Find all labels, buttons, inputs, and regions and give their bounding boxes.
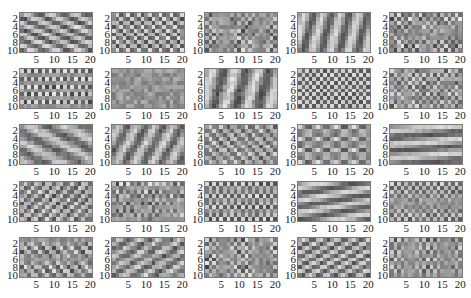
x-tick-label: 5 xyxy=(120,110,136,121)
subplot-6: 2468105101520 xyxy=(20,69,92,108)
y-tick-label: 10 xyxy=(189,102,203,111)
heatmap-image xyxy=(205,125,277,164)
x-tick-label: 5 xyxy=(398,166,414,177)
subplot-3: 2468105101520 xyxy=(205,13,277,52)
x-tick-label: 5 xyxy=(306,223,322,234)
x-tick-label: 10 xyxy=(231,166,247,177)
x-tick-label: 20 xyxy=(360,110,376,121)
subplot-21: 2468105101520 xyxy=(20,238,92,277)
y-tick-label: 10 xyxy=(4,271,18,280)
x-tick-label: 5 xyxy=(213,279,229,290)
x-tick-label: 10 xyxy=(46,166,62,177)
subplot-11: 2468105101520 xyxy=(20,125,92,164)
heatmap-image xyxy=(298,182,370,221)
x-tick-label: 10 xyxy=(416,279,432,290)
x-tick-label: 10 xyxy=(231,223,247,234)
y-tick-label: 10 xyxy=(4,46,18,55)
subplot-10: 2468105101520 xyxy=(390,69,462,108)
heatmap-image xyxy=(205,69,277,108)
subplot-4: 2468105101520 xyxy=(298,13,370,52)
x-tick-label: 20 xyxy=(82,54,98,65)
y-tick-label: 10 xyxy=(189,158,203,167)
y-tick-label: 10 xyxy=(282,271,296,280)
x-tick-label: 5 xyxy=(213,166,229,177)
y-tick-label: 10 xyxy=(282,46,296,55)
x-tick-label: 15 xyxy=(249,223,265,234)
x-tick-label: 20 xyxy=(452,223,468,234)
x-tick-label: 20 xyxy=(174,166,190,177)
x-tick-label: 15 xyxy=(156,110,172,121)
subplot-15: 2468105101520 xyxy=(390,125,462,164)
subplot-17: 2468105101520 xyxy=(112,182,184,221)
x-tick-label: 10 xyxy=(416,110,432,121)
y-tick-label: 10 xyxy=(96,158,110,167)
heatmap-image xyxy=(390,125,462,164)
x-tick-label: 20 xyxy=(267,54,283,65)
x-tick-label: 5 xyxy=(213,223,229,234)
x-tick-label: 15 xyxy=(342,54,358,65)
subplot-24: 2468105101520 xyxy=(298,238,370,277)
heatmap-image xyxy=(205,238,277,277)
x-tick-label: 10 xyxy=(324,54,340,65)
x-tick-label: 10 xyxy=(416,223,432,234)
heatmap-image xyxy=(20,69,92,108)
x-tick-label: 20 xyxy=(267,279,283,290)
x-tick-label: 15 xyxy=(249,110,265,121)
x-tick-label: 15 xyxy=(64,279,80,290)
x-tick-label: 20 xyxy=(267,223,283,234)
x-tick-label: 15 xyxy=(342,223,358,234)
x-tick-label: 15 xyxy=(434,166,450,177)
x-tick-label: 10 xyxy=(324,279,340,290)
subplot-8: 2468105101520 xyxy=(205,69,277,108)
x-tick-label: 5 xyxy=(120,279,136,290)
x-tick-label: 20 xyxy=(360,54,376,65)
x-tick-label: 15 xyxy=(249,54,265,65)
x-tick-label: 20 xyxy=(82,166,98,177)
x-tick-label: 5 xyxy=(120,223,136,234)
heatmap-image xyxy=(390,182,462,221)
y-tick-label: 10 xyxy=(4,102,18,111)
subplot-9: 2468105101520 xyxy=(298,69,370,108)
x-tick-label: 20 xyxy=(452,110,468,121)
heatmap-image xyxy=(112,13,184,52)
subplot-25: 2468105101520 xyxy=(390,238,462,277)
heatmap-image xyxy=(20,125,92,164)
heatmap-image xyxy=(20,182,92,221)
x-tick-label: 20 xyxy=(452,279,468,290)
x-tick-label: 5 xyxy=(398,279,414,290)
heatmap-image xyxy=(20,13,92,52)
x-tick-label: 10 xyxy=(138,110,154,121)
y-tick-label: 10 xyxy=(282,215,296,224)
x-tick-label: 10 xyxy=(231,279,247,290)
x-tick-label: 20 xyxy=(82,110,98,121)
y-tick-label: 10 xyxy=(374,215,388,224)
subplot-23: 2468105101520 xyxy=(205,238,277,277)
x-tick-label: 20 xyxy=(174,279,190,290)
subplot-12: 2468105101520 xyxy=(112,125,184,164)
subplot-13: 2468105101520 xyxy=(205,125,277,164)
x-tick-label: 15 xyxy=(342,166,358,177)
x-tick-label: 10 xyxy=(231,54,247,65)
heatmap-image xyxy=(20,238,92,277)
x-tick-label: 5 xyxy=(28,54,44,65)
y-tick-label: 10 xyxy=(374,271,388,280)
x-tick-label: 20 xyxy=(267,110,283,121)
x-tick-label: 20 xyxy=(82,279,98,290)
x-tick-label: 15 xyxy=(342,279,358,290)
subplot-18: 2468105101520 xyxy=(205,182,277,221)
x-tick-label: 20 xyxy=(267,166,283,177)
x-tick-label: 5 xyxy=(28,166,44,177)
subplot-2: 2468105101520 xyxy=(112,13,184,52)
x-tick-label: 10 xyxy=(46,279,62,290)
x-tick-label: 10 xyxy=(231,110,247,121)
heatmap-image xyxy=(298,238,370,277)
x-tick-label: 10 xyxy=(324,110,340,121)
y-tick-label: 10 xyxy=(374,158,388,167)
x-tick-label: 20 xyxy=(452,54,468,65)
x-tick-label: 15 xyxy=(64,110,80,121)
x-tick-label: 15 xyxy=(434,279,450,290)
subplot-1: 2468105101520 xyxy=(20,13,92,52)
y-tick-label: 10 xyxy=(96,271,110,280)
x-tick-label: 10 xyxy=(46,223,62,234)
x-tick-label: 15 xyxy=(156,223,172,234)
